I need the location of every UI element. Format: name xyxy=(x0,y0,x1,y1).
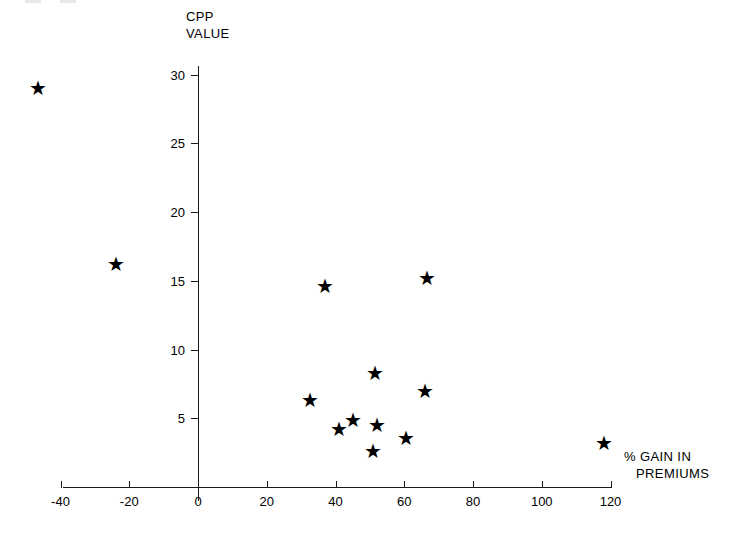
data-point-marker: ★ xyxy=(29,78,47,98)
scan-artifact xyxy=(60,0,76,3)
data-point-marker: ★ xyxy=(595,433,613,453)
y-tick-mark xyxy=(191,75,198,76)
y-axis-title-line2: VALUE xyxy=(186,26,230,41)
y-tick-label: 25 xyxy=(157,137,185,150)
data-point-marker: ★ xyxy=(418,268,436,288)
x-tick-label: 20 xyxy=(260,495,274,508)
x-axis-title-line2: PREMIUMS xyxy=(636,465,709,482)
y-axis-title-line1: CPP xyxy=(186,9,214,24)
x-tick-label: -20 xyxy=(120,495,139,508)
data-point-marker: ★ xyxy=(344,410,362,430)
x-tick-label: -40 xyxy=(51,495,70,508)
x-tick-mark xyxy=(336,481,337,488)
data-point-marker: ★ xyxy=(416,381,434,401)
data-point-marker: ★ xyxy=(301,390,319,410)
y-tick-label: 30 xyxy=(157,68,185,81)
y-tick-mark xyxy=(191,212,198,213)
x-tick-label: 0 xyxy=(194,495,201,508)
x-tick-mark xyxy=(198,481,199,488)
x-tick-label: 120 xyxy=(600,495,622,508)
x-axis-line xyxy=(63,487,611,488)
x-tick-label: 60 xyxy=(397,495,411,508)
x-tick-label: 100 xyxy=(531,495,553,508)
x-tick-mark xyxy=(473,481,474,488)
data-point-marker: ★ xyxy=(364,441,382,461)
x-tick-label: 80 xyxy=(466,495,480,508)
y-tick-mark xyxy=(191,281,198,282)
x-tick-mark xyxy=(267,481,268,488)
y-axis-title: CPP VALUE xyxy=(186,8,230,42)
y-tick-label: 5 xyxy=(157,412,185,425)
y-tick-label: 20 xyxy=(157,206,185,219)
y-tick-label: 15 xyxy=(157,274,185,287)
scatter-chart: CPP VALUE % GAIN IN PREMIUMS -40-2002040… xyxy=(0,0,740,558)
x-axis-title: % GAIN IN PREMIUMS xyxy=(624,448,709,482)
y-tick-label: 10 xyxy=(157,343,185,356)
x-tick-mark xyxy=(404,481,405,488)
x-tick-mark xyxy=(61,481,62,488)
x-tick-mark xyxy=(542,481,543,488)
x-tick-label: 40 xyxy=(328,495,342,508)
y-tick-mark xyxy=(191,350,198,351)
data-point-marker: ★ xyxy=(316,276,334,296)
scan-artifact xyxy=(25,0,41,3)
y-axis-line xyxy=(198,66,199,501)
x-axis-title-line1: % GAIN IN xyxy=(624,449,691,464)
data-point-marker: ★ xyxy=(107,254,125,274)
x-tick-mark xyxy=(129,481,130,488)
y-tick-mark xyxy=(191,418,198,419)
y-tick-mark xyxy=(191,143,198,144)
data-point-marker: ★ xyxy=(397,428,415,448)
x-tick-mark xyxy=(611,481,612,488)
data-point-marker: ★ xyxy=(366,363,384,383)
data-point-marker: ★ xyxy=(368,415,386,435)
